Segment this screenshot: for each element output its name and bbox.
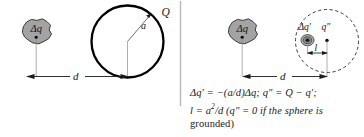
equation-line-1-part-a: Δq′ = −(a/d)Δq; — [190, 87, 263, 98]
dimension-arrow-right-start — [242, 74, 251, 79]
equation-line-2-part-b: /d (q″ = 0 if the sphere is — [215, 104, 323, 115]
sphere-charge-label-left: Q — [162, 6, 171, 18]
charge-blob-right-label: Δq — [236, 23, 248, 34]
charge-blob-left-label: Δq — [30, 23, 42, 34]
image-charge-right — [301, 35, 314, 46]
equation-line-3: grounded) — [190, 117, 364, 131]
equation-line-2: l = a2/d (q″ = 0 if the sphere is — [190, 100, 364, 117]
radius-label-left: a — [141, 20, 146, 31]
physics-figure: Δq a Q d Δq — [0, 0, 364, 137]
right-panel-group: Δq Δq′ q″ l — [228, 10, 358, 84]
center-charge-label-right: q″ — [322, 22, 332, 32]
equation-line-1-part-b: q″ = Q − q′; — [263, 87, 317, 98]
dimension-label-d-left: d — [73, 70, 79, 82]
equation-caption: Δq′ = −(a/d)Δq; q″ = Q − q′; l = a2/d (q… — [190, 86, 364, 130]
dimension-arrow-left-start — [26, 74, 35, 79]
charge-blob-right-point — [241, 36, 244, 39]
equation-line-2-part-a: l = a — [190, 104, 211, 115]
dimension-label-d-right: d — [280, 70, 286, 82]
dimension-label-l: l — [315, 43, 318, 53]
charge-blob-left-point — [35, 36, 38, 39]
left-panel-group: Δq a Q d — [22, 6, 170, 84]
equation-line-1: Δq′ = −(a/d)Δq; q″ = Q − q′; — [190, 86, 364, 100]
image-charge-label-right: Δq′ — [298, 22, 312, 32]
